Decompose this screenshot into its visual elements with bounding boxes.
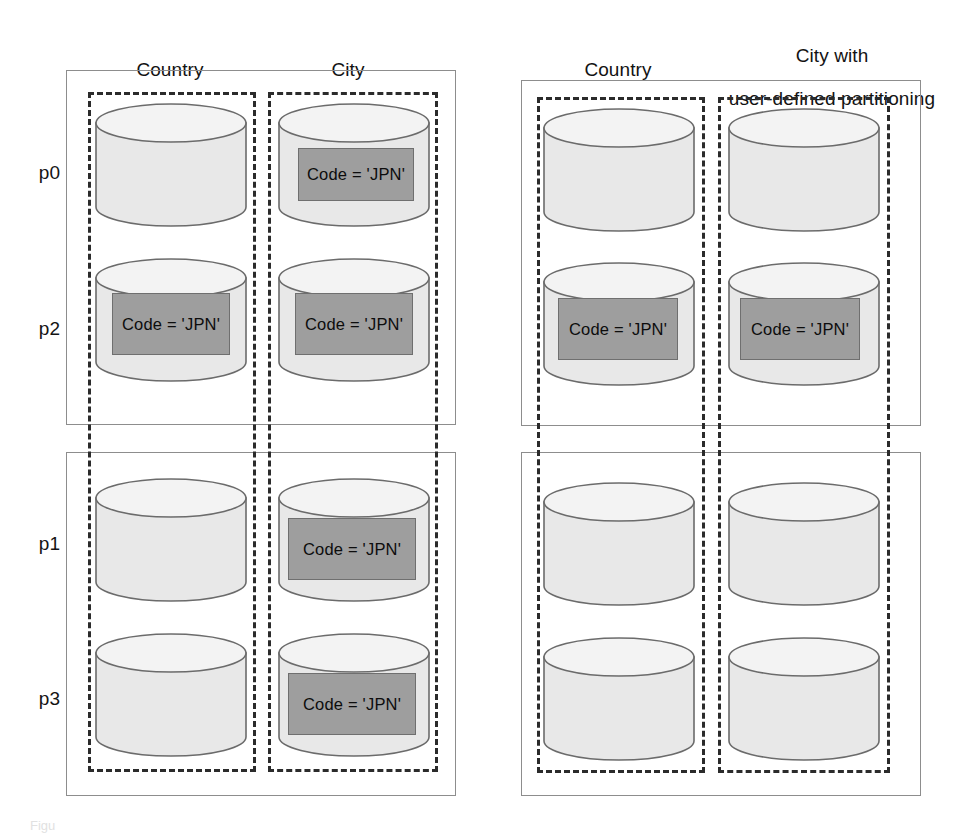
row-label-p0-text: p0 [39, 162, 60, 183]
row-label-p1: p1 [14, 533, 60, 555]
cylinder-right-p0-city [728, 108, 880, 232]
cylinder-right-p3-country [543, 637, 695, 761]
cylinder-left-p3-country [95, 633, 247, 757]
cylinder-right-p1-country [543, 482, 695, 606]
cylinder-right-p0-country [543, 108, 695, 232]
caption-remnant: Figu [30, 818, 55, 833]
predicate-text: Code = 'JPN' [307, 165, 405, 184]
predicate-box-left-p1-city: Code = 'JPN' [288, 518, 416, 580]
header-right-country-label: Country [584, 59, 651, 80]
database-cylinder-icon [543, 482, 695, 606]
cylinder-right-p1-city [728, 482, 880, 606]
database-cylinder-icon [728, 108, 880, 232]
predicate-text: Code = 'JPN' [751, 320, 849, 339]
predicate-text: Code = 'JPN' [569, 320, 667, 339]
row-label-p3-text: p3 [39, 688, 60, 709]
database-cylinder-icon [543, 637, 695, 761]
predicate-text: Code = 'JPN' [122, 315, 220, 334]
header-right-city-line1: City with [712, 45, 952, 66]
predicate-text: Code = 'JPN' [305, 315, 403, 334]
row-label-p0: p0 [14, 162, 60, 184]
caption-remnant-text: Figu [30, 818, 55, 833]
header-right-country: Country [548, 38, 688, 81]
row-label-p1-text: p1 [39, 533, 60, 554]
predicate-box-left-p3-city: Code = 'JPN' [288, 673, 416, 735]
predicate-box-right-p2-city: Code = 'JPN' [740, 298, 860, 360]
row-label-p2: p2 [14, 318, 60, 340]
database-cylinder-icon [543, 108, 695, 232]
database-cylinder-icon [95, 633, 247, 757]
database-cylinder-icon [728, 637, 880, 761]
predicate-text: Code = 'JPN' [303, 540, 401, 559]
predicate-box-right-p2-country: Code = 'JPN' [558, 298, 678, 360]
row-label-p2-text: p2 [39, 318, 60, 339]
database-cylinder-icon [95, 478, 247, 602]
predicate-box-left-p2-city: Code = 'JPN' [295, 293, 413, 355]
database-cylinder-icon [95, 103, 247, 227]
predicate-box-left-p2-country: Code = 'JPN' [112, 293, 230, 355]
predicate-text: Code = 'JPN' [303, 695, 401, 714]
cylinder-right-p3-city [728, 637, 880, 761]
partitioning-diagram: Country City Country City with user-defi… [0, 0, 955, 837]
predicate-box-left-p0-city: Code = 'JPN' [298, 148, 414, 201]
row-label-p3: p3 [14, 688, 60, 710]
cylinder-left-p0-country [95, 103, 247, 227]
database-cylinder-icon [728, 482, 880, 606]
cylinder-left-p1-country [95, 478, 247, 602]
